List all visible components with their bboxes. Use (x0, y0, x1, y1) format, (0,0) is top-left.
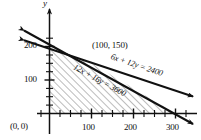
x-tick-label-200: 200 (124, 123, 137, 132)
linear-programming-figure: y 200 100 100 200 300 (0, 0) (100, 150) … (0, 0, 201, 140)
y-tick-label-100: 100 (24, 75, 37, 84)
x-tick-label-300: 300 (166, 123, 179, 132)
x-tick-label-100: 100 (82, 123, 95, 132)
y-axis-label: y (43, 0, 47, 8)
graph-canvas (0, 0, 201, 140)
intersection-point-label: (100, 150) (92, 41, 128, 50)
origin-label: (0, 0) (10, 122, 28, 131)
y-tick-label-200: 200 (24, 41, 37, 50)
